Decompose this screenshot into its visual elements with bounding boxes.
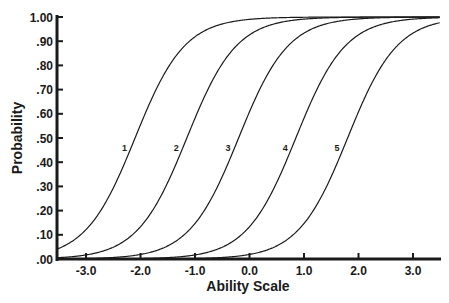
y-tick-label: 1.00 <box>30 11 54 25</box>
y-tick-label: .80 <box>36 59 53 73</box>
y-tick-label: .10 <box>36 228 53 242</box>
curve-1 <box>57 17 440 249</box>
curve-labels: 12345 <box>122 143 340 153</box>
x-tick-label: 1.0 <box>296 264 313 278</box>
x-axis-label: Ability Scale <box>206 278 289 294</box>
curve-label-1: 1 <box>122 143 127 153</box>
curve-4 <box>57 18 440 259</box>
curve-3 <box>57 17 440 259</box>
item-characteristic-curves-chart: 12345 .00.10.20.30.40.50.60.70.80.901.00… <box>0 0 449 303</box>
curve-label-5: 5 <box>335 143 340 153</box>
curve-label-2: 2 <box>174 143 179 153</box>
curve-label-3: 3 <box>226 143 231 153</box>
x-tick-label: -3.0 <box>76 264 97 278</box>
curve-2 <box>57 17 440 258</box>
curve-label-4: 4 <box>283 143 288 153</box>
x-tick-label: -1.0 <box>185 264 206 278</box>
y-tick-label: .60 <box>36 107 53 121</box>
curves <box>57 17 440 259</box>
y-tick-label: .90 <box>36 35 53 49</box>
curve-5 <box>57 23 440 259</box>
x-tick-label: -2.0 <box>130 264 151 278</box>
x-tick-label: 2.0 <box>350 264 367 278</box>
y-tick-label: .40 <box>36 156 53 170</box>
x-tick-label: 3.0 <box>405 264 422 278</box>
y-tick-label: .20 <box>36 204 53 218</box>
x-tick-label: 0.0 <box>241 264 258 278</box>
y-tick-label: .50 <box>36 132 53 146</box>
y-tick-label: .00 <box>36 253 53 267</box>
y-axis-label: Probability <box>9 102 25 175</box>
y-tick-label: .70 <box>36 83 53 97</box>
y-tick-label: .30 <box>36 180 53 194</box>
